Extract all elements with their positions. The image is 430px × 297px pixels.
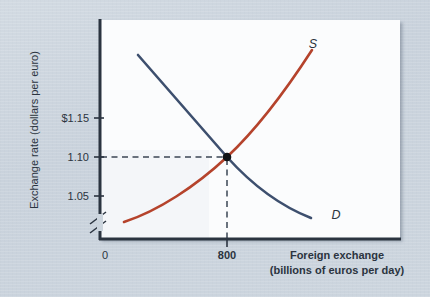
equilibrium-point [223,153,232,162]
x-tick-label-800: 800 [218,249,236,261]
demand-curve-label: D [331,208,340,222]
y-tick-label-115: $1.15 [61,112,89,124]
y-tick-label-105: 1.05 [68,190,89,202]
plot-area-tint [99,150,209,239]
y-axis-title: Exchange rate (dollars per euro) [28,51,40,209]
y-tick-label-110: 1.10 [68,151,89,163]
supply-curve-label: S [309,37,318,51]
x-axis-title-line1: Foreign exchange [290,249,384,261]
supply-demand-chart: $1.15 1.10 1.05 0 800 S D Foreign exchan… [0,0,430,297]
x-axis-title-line2: (billions of euros per day) [270,264,405,276]
origin-label: 0 [102,249,108,261]
figure-container: $1.15 1.10 1.05 0 800 S D Foreign exchan… [0,0,430,297]
